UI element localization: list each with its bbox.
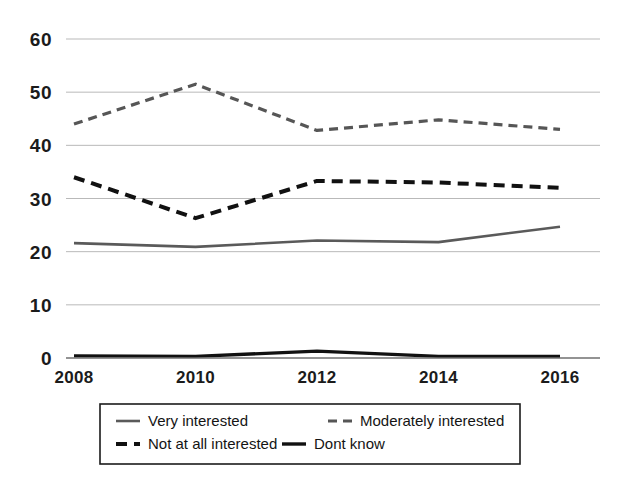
legend-label-dont-know: Dont know (314, 435, 385, 452)
x-tick-label-2008: 2008 (54, 368, 93, 387)
y-tick-label-40: 40 (30, 135, 52, 156)
x-tick-label-2012: 2012 (297, 368, 336, 387)
y-tick-label-20: 20 (30, 242, 52, 263)
y-tick-label-60: 60 (30, 29, 52, 50)
chart-legend: Very interestedModerately interestedNot … (100, 404, 520, 464)
data-series-group (74, 84, 560, 356)
y-axis-tick-labels: 0102030405060 (30, 29, 52, 369)
line-chart: 0102030405060 20082010201220142016 Very … (0, 0, 626, 489)
legend-label-not-at-all-interested: Not at all interested (148, 435, 277, 452)
legend-label-very-interested: Very interested (148, 412, 248, 429)
y-tick-label-10: 10 (30, 295, 52, 316)
legend-label-moderately-interested: Moderately interested (360, 412, 504, 429)
y-tick-label-50: 50 (30, 82, 52, 103)
y-tick-label-0: 0 (41, 348, 52, 369)
series-line-not-at-all-interested (74, 177, 560, 218)
series-line-very-interested (74, 227, 560, 247)
x-tick-label-2014: 2014 (419, 368, 458, 387)
x-axis-tick-labels: 20082010201220142016 (54, 368, 579, 387)
x-tick-label-2016: 2016 (540, 368, 579, 387)
gridlines (66, 39, 600, 305)
x-tick-label-2010: 2010 (176, 368, 215, 387)
series-line-moderately-interested (74, 84, 560, 130)
y-tick-label-30: 30 (30, 189, 52, 210)
series-line-dont-know (74, 351, 560, 356)
chart-canvas: 0102030405060 20082010201220142016 Very … (0, 0, 626, 489)
